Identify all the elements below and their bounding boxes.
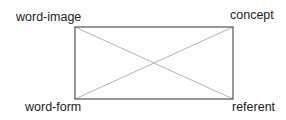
label-word-image: word-image xyxy=(15,10,81,24)
label-referent: referent xyxy=(232,100,276,114)
label-concept: concept xyxy=(230,8,274,22)
semiotic-rectangle-diagram: word-image concept word-form referent xyxy=(0,0,286,120)
label-word-form: word-form xyxy=(24,100,81,114)
